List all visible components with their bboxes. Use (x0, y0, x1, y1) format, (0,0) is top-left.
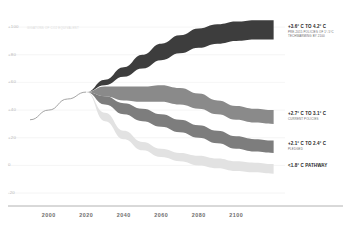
scenario-label: <1.8° C PATHWAY (288, 163, 327, 169)
x-tick-label: 2080 (192, 212, 206, 218)
y-tick-label: 0 (8, 162, 11, 167)
scenario-label: +2.7° C TO 3.1° C (288, 111, 326, 117)
scenario-label: +3.6° C TO 4.2° C (288, 24, 344, 30)
y-tick-label: +20 (8, 135, 16, 140)
scenario-annotation-0: +3.6° C TO 4.2° CPRE-2015 POLICIES OF 1°… (288, 24, 344, 39)
x-tick-label: 2040 (117, 212, 131, 218)
y-tick-label: +60 (8, 79, 16, 84)
y-tick-label: -20 (8, 190, 15, 195)
scenario-sublabel: PLEDGED (288, 148, 326, 152)
y-tick-label: +100 (8, 24, 19, 29)
scenario-band-0 (86, 20, 273, 92)
scenario-annotation-1: +2.7° C TO 3.1° CCURRENT POLICIES (288, 111, 326, 122)
x-tick-label: 2000 (42, 212, 56, 218)
x-tick-label: 2060 (154, 212, 168, 218)
scenario-sublabel: PRE-2015 POLICIES OF 1°-5°C TECHWARMING … (288, 31, 344, 38)
scenario-annotation-3: <1.8° C PATHWAY (288, 163, 327, 169)
y-tick-label: +40 (8, 107, 16, 112)
emissions-scenario-chart: +100+80+60+40+200-20 GIGATONS OF CO2 EQU… (0, 0, 350, 232)
y-tick-label: +80 (8, 52, 16, 57)
historical-emissions-line (30, 92, 86, 120)
scenario-sublabel: CURRENT POLICIES (288, 118, 326, 122)
y-axis-unit-note: GIGATONS OF CO2 EQUIVALENT (27, 26, 79, 30)
x-tick-label: 2100 (229, 212, 243, 218)
scenario-label: +2.1° C TO 2.4° C (288, 141, 326, 147)
scenario-bands (86, 20, 273, 174)
x-tick-label: 2020 (79, 212, 93, 218)
scenario-annotation-2: +2.1° C TO 2.4° CPLEDGED (288, 141, 326, 152)
